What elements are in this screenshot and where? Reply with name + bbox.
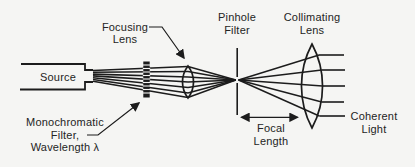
beam-rays-source-to-lens — [93, 67, 188, 98]
beam-rays-converging — [188, 67, 236, 98]
coherent-output-rays — [319, 55, 345, 116]
collimating-lens-label: Collimating Lens — [284, 11, 341, 36]
source-label-text: Source — [40, 71, 76, 84]
focusing-lens-leader-arrow — [149, 27, 184, 58]
monochromatic-filter-bar — [143, 62, 150, 98]
pinhole-filter-label: Pinhole Filter — [218, 11, 256, 36]
coherent-light-label: Coherent Light — [351, 110, 398, 135]
source-label: Source — [40, 71, 76, 84]
focusing-lens-label: Focusing Lens — [102, 21, 148, 46]
focal-length-label: Focal Length — [254, 122, 289, 147]
monochromatic-filter-label: Monochromatic Filter, Wavelength λ — [26, 116, 104, 154]
beam-rays-diverging — [239, 55, 323, 116]
optical-diagram: Source Focusing Lens Pinhole Filter Coll… — [0, 0, 415, 167]
